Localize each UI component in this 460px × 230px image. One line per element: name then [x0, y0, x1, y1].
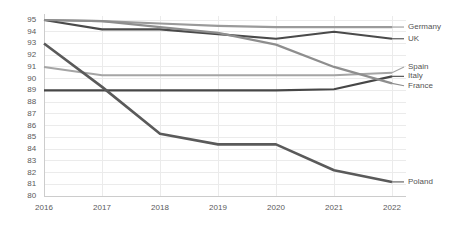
y-tick-label: 93 [14, 39, 36, 47]
x-tick-label: 2019 [198, 204, 238, 212]
y-tick-label: 91 [14, 63, 36, 71]
series-label-uk: UK [408, 35, 419, 43]
series-label-poland: Poland [408, 178, 433, 186]
line-chart: 80818283848586878889909192939495 2016201… [0, 0, 460, 230]
x-tick-label: 2022 [372, 204, 412, 212]
x-tick-label: 2018 [140, 204, 180, 212]
y-tick-label: 82 [14, 169, 36, 177]
y-tick-label: 90 [14, 75, 36, 83]
y-tick-label: 81 [14, 180, 36, 188]
x-tick-label: 2021 [314, 204, 354, 212]
y-tick-label: 85 [14, 133, 36, 141]
grid-lines [44, 16, 406, 196]
y-tick-label: 89 [14, 86, 36, 94]
y-tick-label: 95 [14, 16, 36, 24]
y-tick-label: 84 [14, 145, 36, 153]
y-tick-label: 87 [14, 110, 36, 118]
series-label-germany: Germany [408, 23, 441, 31]
leader-line-france [392, 83, 404, 85]
y-tick-label: 83 [14, 157, 36, 165]
chart-plot-area [0, 0, 460, 230]
series-label-france: France [408, 82, 433, 90]
y-tick-label: 92 [14, 51, 36, 59]
leader-line-spain [392, 67, 404, 73]
series-label-spain: Spain [408, 63, 428, 71]
y-tick-label: 94 [14, 28, 36, 36]
x-tick-label: 2020 [256, 204, 296, 212]
y-tick-label: 86 [14, 122, 36, 130]
x-tick-label: 2017 [82, 204, 122, 212]
y-tick-label: 88 [14, 98, 36, 106]
axis-lines [44, 14, 406, 196]
y-tick-label: 80 [14, 192, 36, 200]
legend-leader-lines [392, 27, 404, 182]
x-tick-label: 2016 [24, 204, 64, 212]
series-label-italy: Italy [408, 72, 423, 80]
